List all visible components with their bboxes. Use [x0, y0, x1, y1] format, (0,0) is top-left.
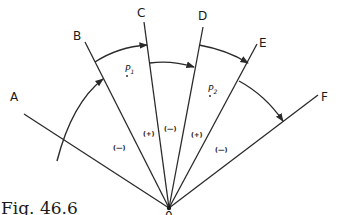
ray-D — [169, 27, 203, 208]
figure-caption: Fig. 46.6 — [1, 198, 78, 215]
ray-A — [24, 114, 169, 208]
arc-C-to-D — [150, 62, 194, 67]
diagram-canvas: A B C D E F P1 P2 (—) (+) (—) (+) (—) Fi… — [0, 0, 339, 215]
sign-region-E-F: (—) — [215, 146, 227, 154]
sign-region-A-B: (—) — [113, 144, 125, 152]
ray-F — [169, 95, 318, 208]
arc-B-to-C — [95, 45, 147, 62]
label-D: D — [198, 9, 207, 23]
arc-A-to-B — [57, 79, 103, 161]
sign-region-B-C: (+) — [143, 130, 154, 138]
point-P2: P2 — [208, 84, 217, 97]
origin-label: 0 — [165, 209, 173, 215]
sign-region-D-E: (+) — [191, 131, 202, 139]
label-E: E — [259, 36, 267, 50]
label-B: B — [73, 29, 81, 43]
sign-region-C-D: (—) — [164, 125, 176, 133]
point-P2-label: P2 — [208, 84, 217, 95]
rays — [24, 22, 318, 208]
ray-E — [169, 44, 257, 208]
arcs — [57, 45, 283, 161]
region-signs: (—) (+) (—) (+) (—) — [113, 125, 227, 154]
arc-E-to-F — [239, 81, 283, 121]
point-P1: P1 — [125, 64, 134, 77]
label-F: F — [321, 90, 328, 104]
point-P2-dot — [209, 95, 211, 97]
ray-labels: A B C D E F — [10, 6, 328, 104]
fan-diagram-figure: A B C D E F P1 P2 (—) (+) (—) (+) (—) Fi… — [0, 0, 339, 215]
label-C: C — [137, 6, 145, 20]
arc-D-to-E — [199, 45, 248, 63]
point-P1-label: P1 — [125, 64, 134, 75]
ray-C — [144, 22, 169, 208]
point-P1-dot — [126, 75, 128, 77]
label-A: A — [10, 90, 19, 104]
